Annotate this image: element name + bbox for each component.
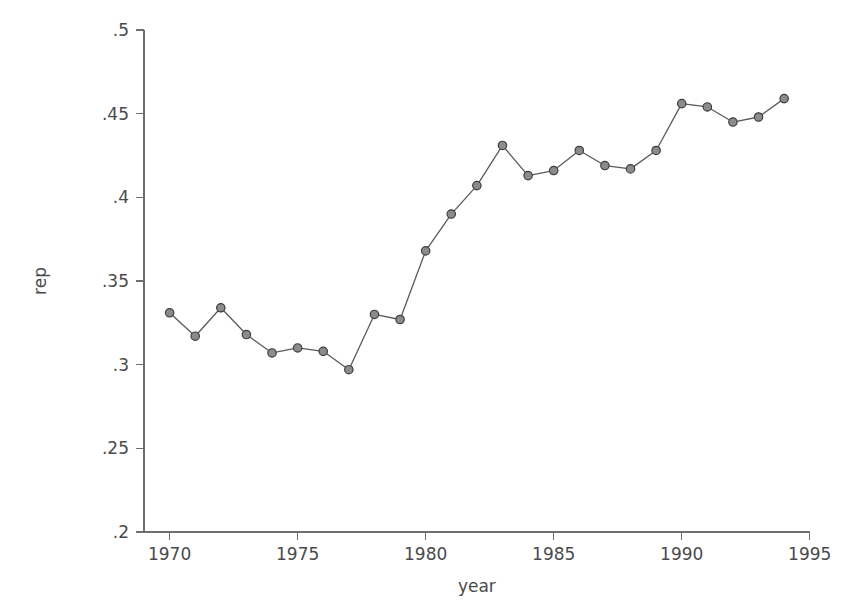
y-tick-label: .2 (113, 522, 129, 542)
data-point-marker (242, 330, 250, 338)
x-tick-label: 1980 (404, 544, 447, 564)
y-tick-label: .3 (113, 355, 129, 375)
data-point-marker (550, 166, 558, 174)
data-point-marker (729, 118, 737, 126)
data-point-marker (268, 349, 276, 357)
y-tick-label: .4 (113, 187, 129, 207)
x-tick-label: 1990 (660, 544, 703, 564)
x-tick-label: 1985 (532, 544, 575, 564)
data-point-marker (678, 99, 686, 107)
y-axis-title: rep (30, 267, 50, 295)
y-tick-label: .45 (102, 104, 129, 124)
data-point-marker (652, 146, 660, 154)
data-point-marker (473, 181, 481, 189)
data-point-marker (396, 315, 404, 323)
chart-canvas: .2.25.3.35.4.45.5 1970197519801985199019… (0, 0, 848, 612)
data-point-marker (780, 94, 788, 102)
data-point-marker (601, 161, 609, 169)
series-polyline (170, 99, 785, 370)
x-axis: 197019751980198519901995 (144, 532, 831, 564)
y-tick-label: .5 (113, 20, 129, 40)
data-point-marker (498, 141, 506, 149)
line-chart-figure: .2.25.3.35.4.45.5 1970197519801985199019… (0, 0, 848, 612)
x-axis-title: year (458, 576, 496, 596)
data-point-marker (575, 146, 583, 154)
data-point-marker (447, 210, 455, 218)
data-point-marker (293, 344, 301, 352)
x-tick-label: 1970 (148, 544, 191, 564)
x-tick-label: 1975 (276, 544, 319, 564)
data-point-marker (345, 365, 353, 373)
data-point-marker (626, 165, 634, 173)
data-point-marker (703, 103, 711, 111)
y-tick-label: .35 (102, 271, 129, 291)
y-axis: .2.25.3.35.4.45.5 (102, 20, 144, 542)
data-point-marker (191, 332, 199, 340)
data-series-rep (165, 94, 788, 373)
x-tick-label: 1995 (788, 544, 831, 564)
data-point-marker (370, 310, 378, 318)
y-tick-label: .25 (102, 438, 129, 458)
data-point-marker (165, 309, 173, 317)
data-point-marker (217, 304, 225, 312)
data-point-marker (319, 347, 327, 355)
data-point-marker (421, 247, 429, 255)
data-point-marker (754, 113, 762, 121)
data-point-marker (524, 171, 532, 179)
